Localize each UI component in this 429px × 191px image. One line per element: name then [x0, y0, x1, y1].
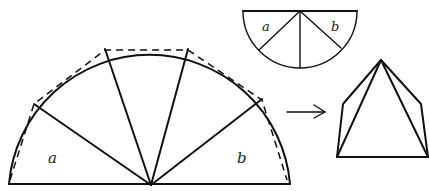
small-label-a: a [262, 19, 270, 34]
sector-label-b: b [237, 149, 247, 167]
pyramid-shape [337, 60, 428, 157]
radius-line-3 [151, 49, 188, 185]
small-semicircle: a b [243, 11, 357, 68]
arrow-right-icon [287, 105, 325, 118]
radius-line-2 [105, 49, 151, 185]
pyramid-left-edge [337, 60, 381, 157]
radius-line-1 [34, 104, 151, 185]
radius-line-4 [151, 99, 262, 185]
diagram-canvas: a b a b [0, 0, 429, 191]
small-label-b: b [331, 19, 339, 34]
large-semicircle: a b [9, 49, 290, 185]
sector-label-a: a [48, 149, 57, 167]
